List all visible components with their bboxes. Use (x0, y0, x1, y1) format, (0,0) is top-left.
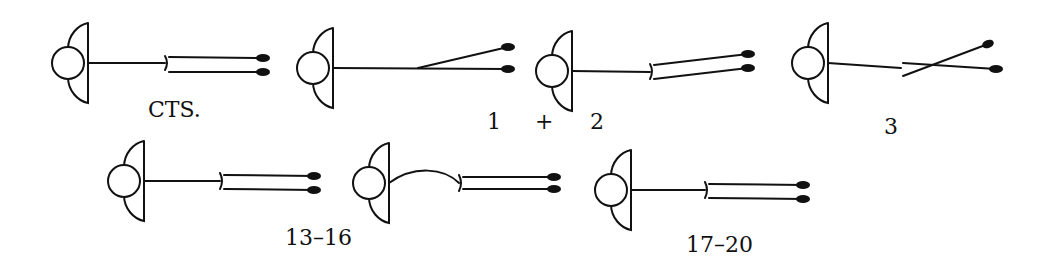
glyph-angled-bracket (536, 31, 754, 111)
label-13-16: 13–16 (285, 225, 352, 250)
label-plus: + (535, 109, 553, 134)
glyph-curved-bracket (353, 143, 560, 223)
label-3: 3 (884, 114, 898, 139)
glyph-diverging (297, 28, 514, 108)
label-17-20: 17–20 (686, 232, 753, 257)
label-1: 1 (487, 109, 501, 134)
label-2: 2 (590, 109, 604, 134)
glyph-17-20 (595, 150, 809, 230)
label-cts: CTS. (148, 97, 201, 122)
glyph-cts (52, 23, 269, 103)
glyph-13-16-a (108, 141, 320, 221)
glyph-crossed (792, 23, 1002, 103)
